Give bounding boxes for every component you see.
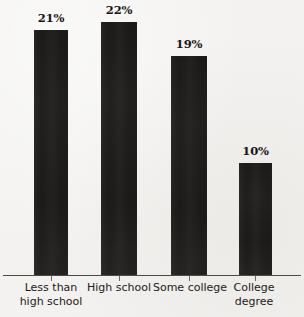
plot-area: 21% 22% 19% 10% bbox=[0, 0, 304, 276]
bar-group: 22% bbox=[101, 0, 137, 276]
bar-chart: 21% 22% 19% 10% Less than high school Hi… bbox=[0, 0, 304, 317]
bar[interactable] bbox=[101, 22, 137, 276]
bar-value-label: 19% bbox=[176, 37, 202, 51]
bar-value-label: 10% bbox=[242, 144, 268, 158]
x-axis-label: College degree bbox=[216, 281, 292, 308]
x-axis-label: High school bbox=[79, 281, 159, 295]
x-axis-line bbox=[3, 275, 301, 276]
bar[interactable] bbox=[239, 163, 272, 276]
bar-group: 10% bbox=[239, 0, 272, 276]
bar[interactable] bbox=[171, 56, 207, 276]
bar[interactable] bbox=[34, 30, 68, 276]
bar-group: 21% bbox=[34, 0, 68, 276]
x-axis-labels: Less than high school High school Some c… bbox=[0, 281, 304, 317]
bar-value-label: 21% bbox=[38, 11, 64, 25]
bar-group: 19% bbox=[171, 0, 207, 276]
bar-value-label: 22% bbox=[106, 3, 132, 17]
